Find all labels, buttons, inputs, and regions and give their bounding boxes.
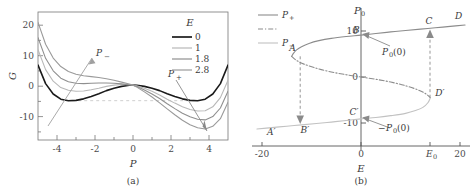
panel-b-legend-sub-0: + <box>289 14 294 22</box>
panel-b-ytick-1: 0 <box>352 72 358 82</box>
panel-b-xtick-1: 0 <box>358 149 364 159</box>
panel-a-ytick-1: 10 <box>23 51 35 61</box>
panel-a-xtick-3: 2 <box>168 144 174 154</box>
panel-a-x-ticks <box>57 135 209 140</box>
p-plus-annotation: P + <box>167 69 182 82</box>
panel-a-xtick-2: 0 <box>130 144 136 154</box>
panel-a-legend-label-2: 1.8 <box>195 54 210 64</box>
panel-b-legend-item-2[interactable]: P − <box>258 38 294 50</box>
panel-a-xtick-0: -4 <box>53 144 62 154</box>
panel-a-legend-title: E <box>185 17 194 28</box>
callout-neg-P0-zero-minus: − <box>378 123 386 133</box>
callout-P0-zero-arg: (0) <box>393 47 406 57</box>
panel-a-ylabel: G <box>7 72 18 80</box>
p-minus-annotation: P − <box>95 48 110 61</box>
panel-b-ylabel-sub: 0 <box>361 10 365 18</box>
panel-b-xtick-3: 20 <box>454 149 466 159</box>
panel-a-legend-label-1: 1 <box>195 43 201 53</box>
panel-b-xtick-2-group: E 0 <box>425 149 437 161</box>
point-C-prime-label: C′ <box>350 107 359 117</box>
panel-a-ytick-2: 0 <box>28 81 34 91</box>
panel-a-legend: E 0 1 1.8 2.8 <box>172 17 210 75</box>
callout-P0-zero-head <box>362 32 369 39</box>
point-B-prime-label: B′ <box>300 125 310 135</box>
panel-b-legend: P + P − <box>258 10 294 50</box>
panel-b-xlabel: E <box>356 163 365 174</box>
point-A-prime-label: A′ <box>266 127 276 137</box>
p-minus-annotation-label: P <box>95 48 103 58</box>
panel-b-legend-sub-2: − <box>289 42 294 50</box>
panel-b-legend-label-0: P <box>281 10 289 20</box>
panel-b-svg: -20 0 E 0 20 10 0 -10 P 0 E <box>238 0 476 189</box>
panel-b-ylabel-group: P 0 <box>353 5 365 18</box>
panel-a-xtick-4: 4 <box>206 144 212 154</box>
panel-a-legend-item-0[interactable]: 0 <box>172 32 201 42</box>
panel-b-callouts: P 0 (0) − P 0 (0) <box>362 32 410 135</box>
panel-a: 20 10 0 -10 -4 -2 0 2 4 P <box>0 0 238 189</box>
panel-a-legend-label-0: 0 <box>195 32 201 42</box>
panel-b-legend-item-0[interactable]: P + <box>258 10 294 22</box>
arrow-A-to-Bprime-head <box>296 116 304 125</box>
point-B-label: B <box>352 25 360 35</box>
callout-neg-P0-zero-label: − P 0 (0) <box>378 123 410 135</box>
panel-a-xlabel: P <box>129 158 137 169</box>
panel-a-legend-label-3: 2.8 <box>195 65 210 75</box>
panel-a-ytick-3: -10 <box>20 112 35 122</box>
figure-container: 20 10 0 -10 -4 -2 0 2 4 P <box>0 0 476 189</box>
panel-a-legend-item-1[interactable]: 1 <box>172 43 201 53</box>
panel-b-xtick-2-sub: 0 <box>433 153 437 161</box>
callout-P0-zero-label: P 0 (0) <box>381 47 406 59</box>
panel-a-svg: 20 10 0 -10 -4 -2 0 2 4 P <box>0 0 238 189</box>
point-D-label: D <box>454 11 462 21</box>
panel-b-ylabel-base: P <box>353 5 361 16</box>
point-D-prime-label: D′ <box>434 88 444 98</box>
panel-b-xtick-0: -20 <box>255 149 270 159</box>
panel-a-caption: (a) <box>127 176 139 186</box>
panel-b-x-ticks <box>262 142 460 146</box>
p-plus-annotation-sub: + <box>176 74 182 82</box>
arrow-Dprime-to-C-head <box>426 30 434 39</box>
panel-b-legend-label-2: P <box>281 38 289 48</box>
p-minus-arrow-line <box>48 58 92 126</box>
p-minus-annotation-sub: − <box>104 53 110 61</box>
panel-a-xtick-1: -2 <box>91 144 100 154</box>
callout-P0-zero-text: P <box>381 47 389 57</box>
panel-b-xtick-2-base: E <box>425 149 433 159</box>
panel-a-legend-item-2[interactable]: 1.8 <box>172 54 210 64</box>
panel-a-ytick-0: 20 <box>23 20 35 30</box>
panel-b: -20 0 E 0 20 10 0 -10 P 0 E <box>238 0 476 189</box>
point-C-label: C <box>425 16 432 26</box>
callout-P0-zero-line <box>366 36 390 47</box>
panel-b-caption: (b) <box>355 176 368 186</box>
callout-neg-P0-zero-arg: (0) <box>397 123 410 133</box>
callout-neg-P0-zero-text: P <box>385 123 393 133</box>
